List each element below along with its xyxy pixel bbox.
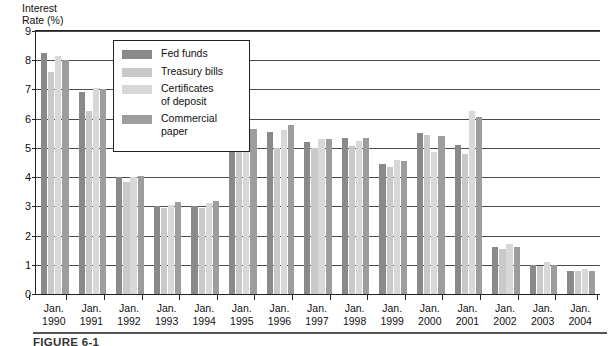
- bar: [199, 208, 205, 294]
- x-axis-tick-label: Jan. 2000: [418, 302, 441, 327]
- bar-group: [417, 31, 445, 294]
- bar: [100, 89, 106, 294]
- y-axis-tick-label: 7: [25, 83, 31, 95]
- x-axis-tick-label: Jan. 2004: [569, 302, 592, 327]
- x-axis-tick-label: Jan. 1998: [343, 302, 366, 327]
- x-axis-tick-mark: [555, 295, 556, 300]
- legend-item: Commercial paper: [122, 112, 243, 137]
- bar: [229, 132, 235, 294]
- legend-item: Treasury bills: [122, 65, 243, 78]
- bar: [582, 269, 588, 294]
- bar-group: [41, 31, 69, 294]
- x-axis-tick-mark: [292, 295, 293, 300]
- x-axis-tick-label: Jan. 2002: [493, 302, 516, 327]
- x-axis-tick-mark: [480, 295, 481, 300]
- bar: [213, 201, 219, 295]
- y-axis-tick-label: 8: [25, 54, 31, 66]
- bar: [363, 138, 369, 294]
- legend-label: Treasury bills: [161, 65, 223, 78]
- bar: [161, 208, 167, 294]
- bar-group: [530, 31, 558, 294]
- bar: [506, 244, 512, 294]
- x-axis-tick-label: Jan. 1996: [268, 302, 291, 327]
- x-axis-tick-mark: [104, 295, 105, 300]
- bar: [93, 88, 99, 294]
- bar: [417, 133, 423, 294]
- bar: [476, 117, 482, 294]
- bar: [281, 130, 287, 294]
- x-axis-tick-mark: [442, 295, 443, 300]
- legend-swatch: [122, 50, 152, 59]
- bar: [342, 138, 348, 294]
- bar: [86, 111, 92, 294]
- bar: [492, 247, 498, 294]
- x-axis-tick-label: Jan. 1999: [381, 302, 404, 327]
- chart-legend: Fed fundsTreasury billsCertificates of d…: [113, 40, 250, 152]
- bar: [424, 135, 430, 294]
- y-axis-tick-label: 1: [25, 259, 31, 271]
- caption-divider: [33, 332, 607, 334]
- figure-root: Interest Rate (%) 0123456789 Jan. 1990Ja…: [0, 0, 609, 346]
- bar: [349, 146, 355, 294]
- y-axis-tick-label: 6: [25, 113, 31, 125]
- y-axis-tick-label: 4: [25, 171, 31, 183]
- x-axis-tick-mark: [66, 295, 67, 300]
- bar: [62, 60, 68, 294]
- bar: [537, 266, 543, 294]
- bar: [356, 141, 362, 294]
- bar: [318, 139, 324, 294]
- bar: [394, 160, 400, 294]
- x-axis-tick-mark: [254, 295, 255, 300]
- legend-swatch: [122, 68, 152, 77]
- bar: [469, 111, 475, 294]
- bar-group: [492, 31, 520, 294]
- bar: [123, 182, 129, 295]
- bar: [438, 136, 444, 294]
- y-axis-tick-label: 5: [25, 142, 31, 154]
- bar: [267, 132, 273, 294]
- bar: [154, 206, 160, 294]
- x-axis-tick-label: Jan. 1995: [230, 302, 253, 327]
- x-axis-tick-label: Jan. 1990: [42, 302, 65, 327]
- bar-group: [567, 31, 595, 294]
- bar: [567, 271, 573, 294]
- bar: [589, 271, 595, 294]
- y-axis-tick-label: 9: [25, 25, 31, 37]
- bar: [551, 265, 557, 294]
- bar: [499, 249, 505, 294]
- x-axis-tick-mark: [142, 295, 143, 300]
- bar: [379, 164, 385, 294]
- y-axis-tick-label: 3: [25, 200, 31, 212]
- x-axis-tick-mark: [217, 295, 218, 300]
- bar: [387, 167, 393, 294]
- legend-label: Commercial paper: [161, 112, 217, 137]
- bar: [206, 203, 212, 294]
- x-axis-tick-label: Jan. 2001: [456, 302, 479, 327]
- bar: [514, 247, 520, 294]
- x-axis-tick-label: Jan. 1992: [117, 302, 140, 327]
- bar: [116, 177, 122, 294]
- x-axis-tick-mark: [179, 295, 180, 300]
- y-axis-tick-label: 2: [25, 230, 31, 242]
- bar: [48, 72, 54, 294]
- bar-group: [267, 31, 295, 294]
- x-axis-tick-label: Jan. 1997: [305, 302, 328, 327]
- bar: [288, 125, 294, 294]
- bar: [326, 139, 332, 294]
- bar: [138, 176, 144, 294]
- y-axis-title: Interest Rate (%): [22, 2, 63, 26]
- legend-swatch: [122, 85, 152, 94]
- bar-group: [342, 31, 370, 294]
- legend-item: Certificates of deposit: [122, 82, 243, 107]
- x-axis-tick-label: Jan. 2003: [531, 302, 554, 327]
- x-axis-tick-mark: [29, 295, 30, 300]
- bar: [175, 202, 181, 294]
- x-axis-tick-mark: [367, 295, 368, 300]
- bar: [455, 145, 461, 294]
- bar: [79, 92, 85, 294]
- bar: [401, 161, 407, 294]
- x-axis-tick-mark: [405, 295, 406, 300]
- figure-caption: FIGURE 6-1: [33, 336, 99, 346]
- bar: [431, 152, 437, 294]
- bar: [274, 148, 280, 294]
